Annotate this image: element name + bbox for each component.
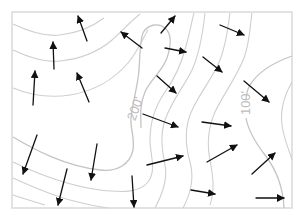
vector-arrow-icon <box>220 25 244 35</box>
contour-line <box>13 30 148 96</box>
vector-arrow-icon <box>121 32 142 48</box>
vector-arrow-icon <box>191 190 215 194</box>
vector-arrow-icon <box>202 122 231 126</box>
contour-line <box>183 13 230 208</box>
vector-arrow-icon <box>207 145 237 162</box>
vector-arrow-icon <box>91 144 97 180</box>
contour-line <box>281 82 292 160</box>
contour-line <box>13 13 194 191</box>
contour-vector-field-diagram: 200'100' <box>0 0 303 219</box>
contour-line <box>246 56 292 208</box>
vector-arrow-icon <box>143 114 178 127</box>
vector-arrow-icon <box>203 57 222 72</box>
contour-line <box>13 14 140 61</box>
contour-line <box>13 25 170 170</box>
contour-line <box>13 18 104 35</box>
vector-arrow-icon <box>77 73 89 102</box>
vector-arrow-icon <box>132 176 134 207</box>
vector-arrow-icon <box>53 42 54 69</box>
vector-arrow-icon <box>33 71 35 105</box>
contour-line <box>13 195 45 205</box>
contour-line <box>155 13 205 208</box>
contour-elevation-label: 200' <box>124 95 146 123</box>
contour-elevation-label: 100' <box>238 91 253 115</box>
vector-arrow-icon <box>23 135 37 174</box>
vector-arrow-icon <box>165 48 186 52</box>
vector-arrow-icon <box>58 169 67 205</box>
